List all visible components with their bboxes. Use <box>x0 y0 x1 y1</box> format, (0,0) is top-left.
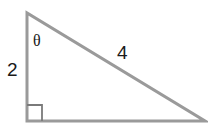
triangle-shape <box>0 0 208 138</box>
triangle-outline <box>27 13 205 121</box>
vertical-side-label: 2 <box>7 60 18 79</box>
angle-theta-label: θ <box>33 33 41 49</box>
right-angle-marker <box>27 105 42 121</box>
right-triangle-diagram: 2 4 θ <box>0 0 208 138</box>
hypotenuse-label: 4 <box>117 43 128 62</box>
